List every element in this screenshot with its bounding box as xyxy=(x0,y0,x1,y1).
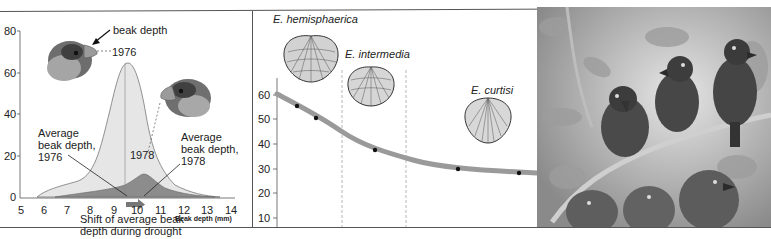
shell-e-curtisi-illustration xyxy=(465,98,511,143)
beak-depth-label: beak depth xyxy=(113,24,167,36)
avg-1976-label-3: 1976 xyxy=(38,151,62,163)
avg-1978-label-1: Average xyxy=(181,131,222,143)
clam-trend-chart xyxy=(253,0,537,239)
species-label-e-curtisi: E. curtisi xyxy=(471,84,513,96)
y-tick-10: 10 xyxy=(258,212,270,224)
clam-evolution-panel: E. hemisphaerica E. intermedia E. curtis… xyxy=(253,0,537,239)
beak-depth-panel: 80 60 40 20 0 5 6 7 8 9 10 11 12 13 14 B… xyxy=(0,0,252,239)
x-tick-5: 5 xyxy=(18,204,24,216)
y-tick-40: 40 xyxy=(258,138,270,150)
year-1978-label: 1978 xyxy=(130,149,154,161)
y-tick-60: 60 xyxy=(4,67,16,79)
y-tick-50: 50 xyxy=(258,113,270,125)
y-tick-0: 0 xyxy=(10,191,16,203)
species-label-e-intermedia: E. intermedia xyxy=(345,48,410,60)
finch-head-1978-illustration xyxy=(161,79,211,117)
avg-1978-label-2: beak depth, xyxy=(181,143,239,155)
y-tick-20: 20 xyxy=(4,150,16,162)
finch-head-1976-illustration xyxy=(47,41,97,81)
shift-label-1: Shift of average beak xyxy=(80,213,184,225)
x-tick-6: 6 xyxy=(41,204,47,216)
year-1976-label: 1976 xyxy=(112,46,136,58)
y-tick-40: 40 xyxy=(4,108,16,120)
y-tick-60: 60 xyxy=(258,89,270,101)
y-tick-80: 80 xyxy=(4,25,16,37)
y-tick-30: 30 xyxy=(258,163,270,175)
shell-e-intermedia-illustration xyxy=(348,67,394,106)
x-tick-7: 7 xyxy=(64,204,70,216)
shell-e-hemisphaerica-illustration xyxy=(284,36,338,82)
avg-1976-label-2: beak depth, xyxy=(38,139,96,151)
avg-1976-label-1: Average xyxy=(38,127,79,139)
finches-photo-panel xyxy=(537,7,771,227)
avg-1978-label-3: 1978 xyxy=(181,155,205,167)
species-label-e-hemisphaerica: E. hemisphaerica xyxy=(273,13,358,25)
finches-photo xyxy=(537,7,771,227)
shift-label-2: depth during drought xyxy=(80,225,182,237)
y-tick-20: 20 xyxy=(258,187,270,199)
